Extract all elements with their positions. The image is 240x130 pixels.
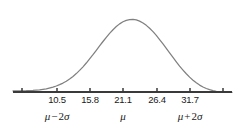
tick-label-31-7: 31.7 <box>181 94 199 105</box>
normal-distribution-figure: 10.5 15.8 21.1 26.4 31.7 μ−2σ μ μ+2σ <box>0 0 240 130</box>
tick-label-26-4: 26.4 <box>148 94 166 105</box>
mu-symbol-right: μ <box>178 110 184 122</box>
sigma-symbol-right: σ <box>197 110 202 122</box>
tick-label-21-1: 21.1 <box>114 94 132 105</box>
annotation-mu-minus-2-sigma: μ−2σ <box>45 110 70 123</box>
tick-label-15-8: 15.8 <box>81 94 99 105</box>
annotation-mu: μ <box>120 110 126 123</box>
plus-operator: + <box>183 110 191 122</box>
normal-curve-path <box>13 19 232 92</box>
mu-symbol-left: μ <box>45 110 51 122</box>
tick-label-10-5: 10.5 <box>48 94 66 105</box>
minus-operator: − <box>50 110 58 122</box>
mu-symbol-center: μ <box>120 110 126 122</box>
sigma-symbol-left: σ <box>64 110 69 122</box>
annotation-mu-plus-2-sigma: μ+2σ <box>178 110 203 123</box>
